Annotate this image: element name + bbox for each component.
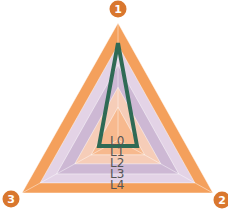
radar-chart: L0L1L2L3L4 123 [0,0,228,222]
axis-label: 3 [7,193,15,206]
axis-badge-2: 2 [214,192,229,209]
level-labels: L0L1L2L3L4 [110,134,124,192]
axis-label: 1 [114,3,122,16]
axis-badge-3: 3 [3,191,20,208]
axis-label: 2 [218,194,226,207]
level-label-l4: L4 [110,178,124,192]
axis-badge-1: 1 [110,1,127,18]
